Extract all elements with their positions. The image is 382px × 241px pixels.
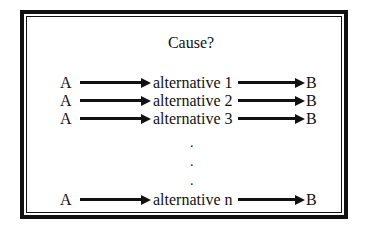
source-label: A [60, 92, 72, 110]
right-arrow-icon [238, 81, 296, 84]
right-arrow-icon [80, 99, 142, 102]
diagram-title: Cause? [0, 34, 382, 52]
causal-row-n: A alternative n B [0, 191, 382, 209]
alternative-label: alternative 2 [153, 92, 235, 110]
right-arrow-icon [238, 99, 296, 102]
causal-row-3: A alternative 3 B [0, 110, 382, 128]
source-label: A [60, 191, 72, 209]
causal-row-2: A alternative 2 B [0, 92, 382, 110]
target-label: B [306, 92, 317, 110]
alternative-label: alternative n [153, 191, 235, 209]
right-arrow-icon [80, 198, 142, 201]
source-label: A [60, 110, 72, 128]
right-arrow-icon [238, 117, 296, 120]
target-label: B [306, 191, 317, 209]
ellipsis-dot: . [190, 136, 194, 150]
ellipsis-dot: . [190, 174, 194, 188]
source-label: A [60, 74, 72, 92]
target-label: B [306, 74, 317, 92]
ellipsis-dot: . [190, 155, 194, 169]
alternative-label: alternative 1 [153, 74, 235, 92]
right-arrow-icon [80, 117, 142, 120]
right-arrow-icon [80, 81, 142, 84]
alternative-label: alternative 3 [153, 110, 235, 128]
target-label: B [306, 110, 317, 128]
right-arrow-icon [238, 198, 296, 201]
causal-row-1: A alternative 1 B [0, 74, 382, 92]
